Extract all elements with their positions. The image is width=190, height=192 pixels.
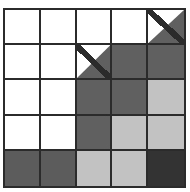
grid-cell-r3-c4[interactable] (112, 80, 148, 115)
pixel-grid[interactable] (3, 8, 186, 188)
canvas (0, 0, 190, 192)
grid-cell-r1-c5[interactable] (148, 10, 184, 45)
grid-cell-r3-c3[interactable] (77, 80, 113, 115)
grid-cell-r2-c2[interactable] (41, 45, 77, 80)
grid-cell-r3-c5[interactable] (148, 80, 184, 115)
grid-cell-r2-c3[interactable] (77, 45, 113, 80)
grid-cell-r4-c5[interactable] (148, 116, 184, 151)
grid-cell-r4-c2[interactable] (41, 116, 77, 151)
grid-cell-r1-c1[interactable] (5, 10, 41, 45)
grid-cell-r1-c3[interactable] (77, 10, 113, 45)
diagonal-fill-triangle (148, 10, 184, 43)
grid-cell-r4-c1[interactable] (5, 116, 41, 151)
grid-cell-r1-c4[interactable] (112, 10, 148, 45)
diagonal-fill-triangle (77, 45, 111, 78)
grid-cell-r5-c4[interactable] (112, 151, 148, 186)
grid-cell-r5-c5[interactable] (148, 151, 184, 186)
grid-cell-r1-c2[interactable] (41, 10, 77, 45)
grid-cell-r3-c2[interactable] (41, 80, 77, 115)
grid-container (3, 8, 186, 188)
grid-cell-r2-c5[interactable] (148, 45, 184, 80)
grid-cell-r4-c3[interactable] (77, 116, 113, 151)
grid-cell-r5-c3[interactable] (77, 151, 113, 186)
grid-cell-r3-c1[interactable] (5, 80, 41, 115)
grid-cell-r4-c4[interactable] (112, 116, 148, 151)
grid-cell-r2-c4[interactable] (112, 45, 148, 80)
grid-cell-r5-c1[interactable] (5, 151, 41, 186)
grid-cell-r5-c2[interactable] (41, 151, 77, 186)
grid-cell-r2-c1[interactable] (5, 45, 41, 80)
